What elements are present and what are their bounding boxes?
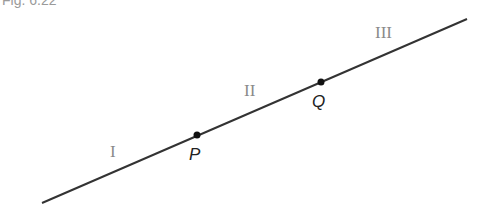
point-p-dot — [194, 132, 201, 139]
line-diagram: P Q I II III — [0, 0, 491, 219]
point-q-dot — [318, 79, 325, 86]
point-p-label: P — [189, 145, 201, 164]
point-q-label: Q — [312, 92, 325, 111]
figure-canvas: Fig. 6.22 P Q I II III — [0, 0, 491, 219]
region-ii-label: II — [244, 81, 256, 100]
region-iii-label: III — [375, 23, 392, 42]
region-i-label: I — [110, 142, 116, 161]
line — [42, 19, 467, 203]
